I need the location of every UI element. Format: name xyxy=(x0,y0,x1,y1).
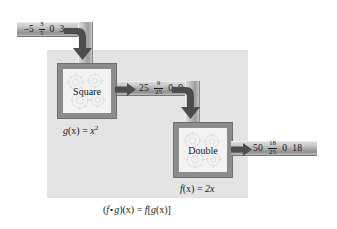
formula-equals: = xyxy=(137,204,143,215)
input-value-2-fraction: 3 5 xyxy=(39,21,45,37)
caption-f-eq: = xyxy=(197,183,203,194)
caption-f-of-x: f(x) = 2x xyxy=(180,183,215,194)
fraction-numerator: 9 xyxy=(156,80,162,87)
machine-double-label: Double xyxy=(188,145,217,156)
machine-square-inner: Square xyxy=(63,69,111,113)
caption-f-body: 2x xyxy=(205,183,214,194)
machine-square[interactable]: Square xyxy=(57,63,117,119)
input-band-values: –5 3 5 0 3 xyxy=(17,22,65,38)
fraction-denominator: 25 xyxy=(268,148,277,156)
caption-f-arg: (x) xyxy=(183,183,195,194)
formula-close-x: )(x) xyxy=(119,204,134,215)
machine-square-label: Square xyxy=(73,86,101,97)
input-value-1: –5 xyxy=(24,25,34,35)
caption-g-of-x: g(x) = x2 xyxy=(63,124,98,136)
machine-double-inner: Double xyxy=(179,128,227,172)
composition-formula: (f∘g)(x) = f[g(x)] xyxy=(103,204,171,215)
fraction-denominator: 5 xyxy=(39,29,45,37)
fraction-numerator: 18 xyxy=(268,140,277,147)
caption-g-exponent: 2 xyxy=(95,124,99,132)
middle-value-2-fraction: 9 25 xyxy=(154,80,163,96)
middle-value-1: 25 xyxy=(139,84,149,94)
output-value-3: 0 xyxy=(282,144,287,154)
machine-double[interactable]: Double xyxy=(173,122,233,178)
arrow-right-icon-double-out xyxy=(231,142,253,155)
fraction-numerator: 3 xyxy=(39,21,45,28)
arrow-right-icon-square-out xyxy=(115,82,137,95)
arrow-elbow-down-icon-input xyxy=(62,18,96,62)
output-value-1: 50 xyxy=(253,144,263,154)
caption-g-arg: (x) xyxy=(68,125,80,136)
caption-g-eq: = xyxy=(82,125,88,136)
fraction-denominator: 25 xyxy=(154,88,163,96)
formula-bracket-close: ] xyxy=(168,204,171,215)
composition-diagram: –5 3 5 0 3 xyxy=(0,0,337,229)
output-value-4: 18 xyxy=(292,144,302,154)
arrow-elbow-down-icon-middle xyxy=(170,77,204,121)
output-value-2-fraction: 18 25 xyxy=(268,140,277,156)
input-value-3: 0 xyxy=(50,25,55,35)
formula-gx: (x) xyxy=(156,204,168,215)
